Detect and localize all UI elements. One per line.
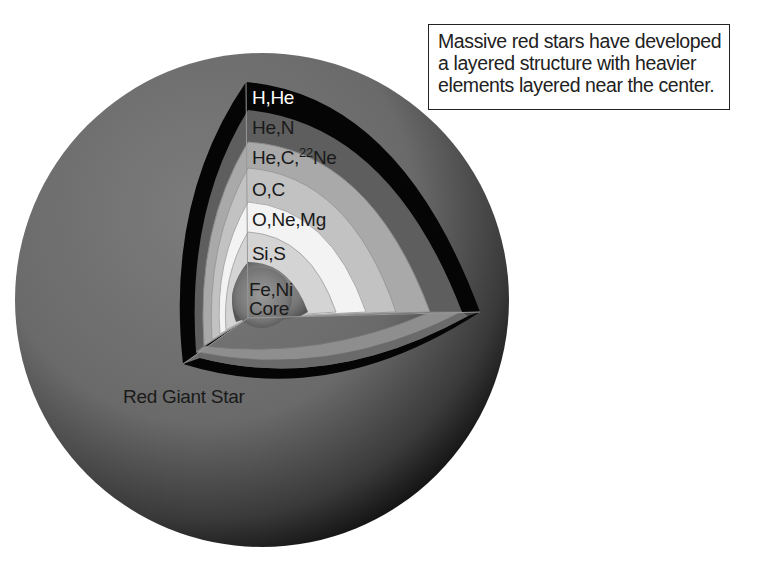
label-fe-ni: Fe,Ni	[249, 279, 293, 300]
label-h-he: H,He	[252, 87, 294, 108]
label-o-ne-mg: O,Ne,Mg	[252, 209, 326, 230]
label-o-c: O,C	[252, 179, 285, 200]
caption-line-2: a layered structure with heavier	[438, 52, 729, 74]
label-he-c-ne: He,C,22Ne	[252, 145, 337, 168]
caption-box: Massive red stars have developed a layer…	[428, 24, 730, 110]
caption-line-1: Massive red stars have developed	[438, 30, 729, 52]
label-si-s: Si,S	[252, 243, 286, 264]
label-core: Core	[249, 298, 289, 319]
star-label: Red Giant Star	[123, 386, 245, 407]
label-he-n: He,N	[252, 117, 294, 138]
caption-line-3: elements layered near the center.	[438, 74, 729, 96]
